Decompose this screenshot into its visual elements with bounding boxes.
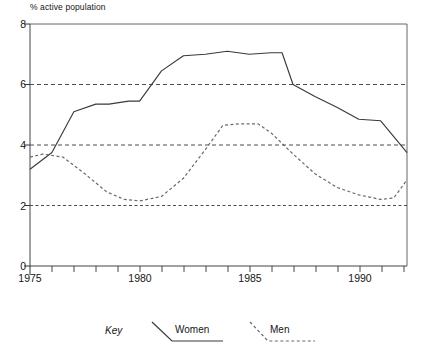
chart-container: % active population 8 6 4 2 0 1975 1980 …	[0, 0, 427, 355]
plot-area	[0, 0, 427, 355]
gridlines	[30, 85, 407, 206]
y-axis-ticks	[24, 24, 30, 266]
x-axis-ticks	[30, 266, 404, 275]
series-line-men	[30, 124, 407, 201]
series-line-women	[30, 51, 407, 169]
